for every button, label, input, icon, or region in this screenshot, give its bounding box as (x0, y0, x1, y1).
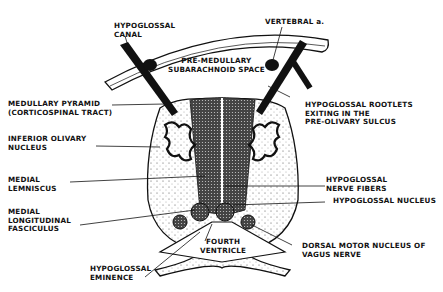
left-dorsal-vagal-nucleus (173, 215, 187, 229)
label-dorsal-motor-nucleus: DORSAL MOTOR NUCLEUS OF VAGUS NERVE (302, 242, 426, 259)
label-hypoglossal-fibers: HYPOGLOSSAL NERVE FIBERS (326, 176, 387, 193)
label-hypoglossal-rootlets: HYPOGLOSSAL ROOTLETS EXITING IN THE PRE-… (305, 101, 413, 127)
label-mlf: MEDIAL LONGITUDINAL FASCICULUS (8, 208, 71, 234)
label-medullary-pyramid: MEDULLARY PYRAMID (CORTICOSPINAL TRACT) (8, 100, 112, 117)
label-vertebral-artery: VERTEBRAL a. (265, 18, 324, 27)
label-premedullary-space: PRE-MEDULLARY SUBARACHNOID SPACE (168, 57, 265, 74)
right-dorsal-vagal-nucleus (241, 215, 255, 229)
label-medial-lemniscus: MEDIAL LEMNISCUS (8, 176, 57, 193)
label-hypoglossal-nucleus: HYPOGLOSSAL NUCLEUS (333, 197, 436, 206)
label-hypoglossal-eminence: HYPOGLOSSAL EMINENCE (90, 265, 151, 282)
left-hypoglossal-nucleus (191, 203, 209, 221)
right-hypoglossal-nerve (256, 40, 307, 115)
label-inferior-olivary: INFERIOR OLIVARY NUCLEUS (8, 135, 86, 152)
left-vertebral-artery (143, 59, 157, 71)
label-hypoglossal-canal: HYPOGLOSSAL CANAL (114, 22, 175, 39)
right-vertebral-artery (265, 59, 279, 71)
right-hypoglossal-nucleus (216, 203, 234, 221)
label-fourth-ventricle: FOURTH VENTRICLE (200, 238, 246, 255)
